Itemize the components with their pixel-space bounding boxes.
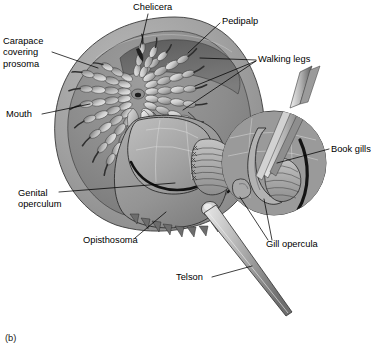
label-pedipalp: Pedipalp	[222, 16, 258, 26]
figure-caption: (b)	[5, 333, 16, 343]
figure-root: CarapacecoveringprosomaCheliceraPedipalp…	[0, 0, 383, 346]
label-carapace-covering-prosoma: Carapacecoveringprosoma	[3, 36, 43, 69]
label-chelicera: Chelicera	[133, 2, 173, 12]
label-telson: Telson	[176, 272, 203, 282]
label-book-gills: Book gills	[331, 144, 371, 154]
label-gill-opercula: Gill opercula	[266, 239, 319, 249]
label-walking-legs: Walking legs	[258, 54, 311, 64]
label-opisthosoma: Opisthosoma	[83, 235, 139, 245]
label-mouth: Mouth	[6, 109, 32, 119]
horseshoe-crab-diagram: CarapacecoveringprosomaCheliceraPedipalp…	[0, 0, 383, 346]
mouth-opening	[135, 93, 141, 98]
